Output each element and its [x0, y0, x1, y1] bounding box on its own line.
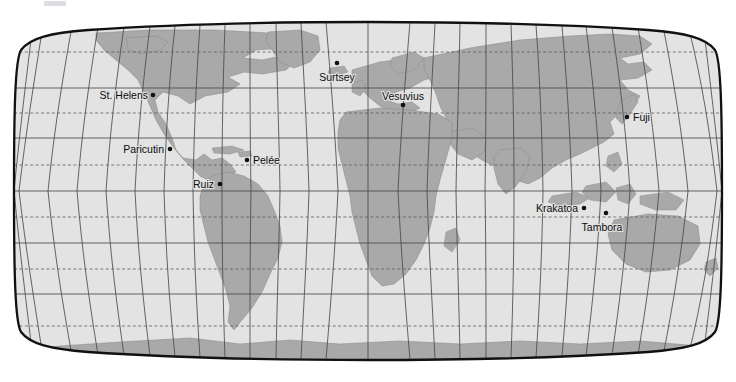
volcano-label: Paricutin [123, 143, 164, 155]
volcano-label: Pelée [253, 154, 280, 166]
landmass-hispaniola [238, 151, 252, 157]
map-canvas: St. HelensParicutinRuizPeléeSurtseyVesuv… [0, 0, 736, 382]
volcano-dot-icon [151, 93, 156, 98]
volcano-marker[interactable]: St. Helens [100, 89, 156, 101]
volcano-label: St. Helens [100, 89, 148, 101]
volcano-dot-icon [604, 211, 609, 216]
volcano-label: Krakatoa [536, 202, 578, 214]
volcano-dot-icon [335, 61, 340, 66]
volcano-dot-icon [401, 103, 406, 108]
volcano-label: Ruiz [193, 178, 214, 190]
volcano-label: Tambora [582, 221, 623, 233]
volcano-dot-icon [245, 158, 250, 163]
volcano-dot-icon [582, 206, 587, 211]
volcano-label: Fuji [633, 111, 650, 123]
volcano-dot-icon [625, 115, 630, 120]
scan-artifact [44, 1, 66, 6]
world-volcano-map: St. HelensParicutinRuizPeléeSurtseyVesuv… [0, 0, 736, 382]
volcano-label: Vesuvius [382, 90, 424, 102]
volcano-label: Surtsey [319, 71, 355, 83]
volcano-dot-icon [218, 182, 223, 187]
volcano-dot-icon [168, 147, 173, 152]
